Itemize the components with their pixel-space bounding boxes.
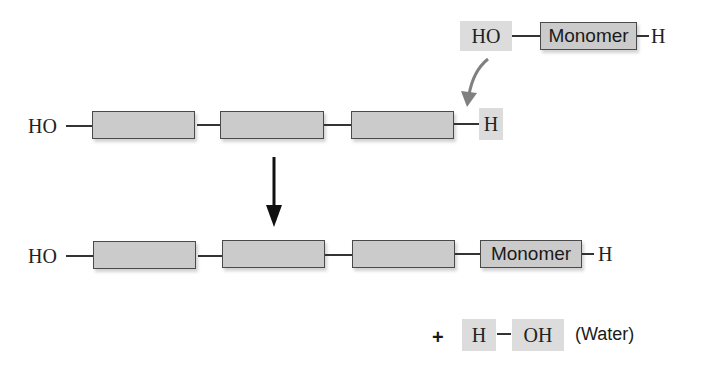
- water-label: (Water): [575, 324, 634, 345]
- h-text: H: [472, 324, 486, 347]
- h-text: H: [484, 113, 498, 136]
- polymer-h-group: H: [479, 108, 503, 140]
- bond: [325, 254, 353, 256]
- bond: [455, 253, 481, 255]
- polymer-unit: [220, 111, 324, 139]
- incoming-ho-group: HO: [460, 21, 512, 51]
- bond: [324, 124, 352, 126]
- polymer-unit: [351, 111, 454, 139]
- curved-arrow-icon: [455, 55, 495, 110]
- bond: [66, 255, 94, 257]
- polymer-unit: [222, 240, 325, 268]
- bond: [582, 253, 594, 255]
- monomer-label: Monomer: [548, 25, 628, 47]
- polymer-ho-group: HO: [28, 116, 57, 136]
- incoming-h-group: H: [651, 26, 665, 46]
- monomer-label: Monomer: [491, 243, 571, 265]
- bond: [197, 124, 221, 126]
- new-monomer-unit: Monomer: [480, 240, 582, 268]
- plus-sign: +: [432, 326, 444, 349]
- product-h-group: H: [598, 244, 612, 264]
- down-arrow-icon: [264, 155, 284, 230]
- product-ho-group: HO: [28, 246, 57, 266]
- bond: [198, 255, 223, 257]
- incoming-monomer-box: Monomer: [540, 22, 637, 50]
- polymer-unit: [92, 111, 195, 139]
- bond: [454, 123, 480, 125]
- bond: [512, 35, 542, 37]
- bond: [497, 333, 511, 335]
- bond: [66, 125, 93, 127]
- ho-text: HO: [472, 25, 501, 48]
- oh-text: OH: [524, 324, 553, 347]
- water-oh: OH: [512, 319, 564, 351]
- polymer-unit: [352, 240, 455, 268]
- polymer-unit: [93, 241, 196, 269]
- water-h: H: [462, 319, 496, 351]
- bond: [637, 35, 649, 37]
